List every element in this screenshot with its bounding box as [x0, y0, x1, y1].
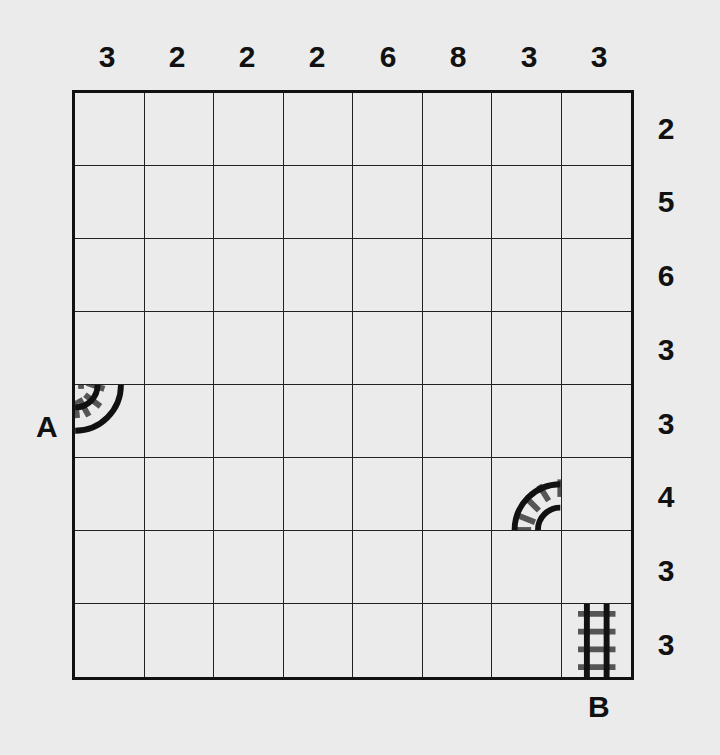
- grid-cell[interactable]: [145, 604, 215, 677]
- grid-cell[interactable]: [284, 166, 354, 239]
- grid-cell[interactable]: [145, 312, 215, 385]
- grid-cell[interactable]: [492, 385, 562, 458]
- grid-cell[interactable]: [214, 385, 284, 458]
- column-clue-7: 3: [494, 40, 564, 74]
- grid-cell[interactable]: [75, 239, 145, 312]
- grid-cell[interactable]: [75, 604, 145, 677]
- grid-cell[interactable]: [214, 458, 284, 531]
- grid-cell[interactable]: [562, 239, 632, 312]
- grid-cell[interactable]: [353, 93, 423, 166]
- curved-track-icon: [492, 458, 561, 530]
- grid-cell[interactable]: [284, 385, 354, 458]
- row-clue-2: 5: [646, 185, 686, 219]
- grid-cell[interactable]: [214, 604, 284, 677]
- grid-cell[interactable]: [562, 93, 632, 166]
- grid-cell[interactable]: [145, 385, 215, 458]
- grid-cell[interactable]: [562, 166, 632, 239]
- row-clue-6: 4: [646, 480, 686, 514]
- row-clue-7: 3: [646, 554, 686, 588]
- grid-cell[interactable]: [353, 312, 423, 385]
- grid-cell[interactable]: [214, 166, 284, 239]
- row-clue-5: 3: [646, 407, 686, 441]
- grid-cell[interactable]: [423, 458, 493, 531]
- grid-cell-given-track: [492, 458, 562, 531]
- grid-cell[interactable]: [492, 531, 562, 604]
- grid-cell[interactable]: [214, 93, 284, 166]
- endpoint-label-a: A: [36, 410, 58, 444]
- grid-cell[interactable]: [423, 166, 493, 239]
- grid-cell[interactable]: [562, 312, 632, 385]
- grid-cell[interactable]: [353, 239, 423, 312]
- grid-cell[interactable]: [423, 604, 493, 677]
- grid-cell[interactable]: [75, 458, 145, 531]
- track-grid: [72, 90, 634, 680]
- grid-cell[interactable]: [492, 604, 562, 677]
- grid-cell[interactable]: [75, 531, 145, 604]
- grid-cell[interactable]: [145, 458, 215, 531]
- grid-cell[interactable]: [75, 312, 145, 385]
- grid-cell[interactable]: [353, 604, 423, 677]
- grid-cell[interactable]: [492, 166, 562, 239]
- column-clue-5: 6: [353, 40, 423, 74]
- grid-cell[interactable]: [492, 239, 562, 312]
- grid-cell[interactable]: [353, 166, 423, 239]
- grid-cell[interactable]: [75, 93, 145, 166]
- column-clue-1: 3: [72, 40, 142, 74]
- grid-cell[interactable]: [423, 239, 493, 312]
- grid-cell[interactable]: [145, 239, 215, 312]
- grid-cell[interactable]: [145, 166, 215, 239]
- row-clue-8: 3: [646, 628, 686, 662]
- grid-cell[interactable]: [214, 312, 284, 385]
- endpoint-label-b: B: [588, 690, 610, 724]
- grid-cell[interactable]: [353, 458, 423, 531]
- grid-cell[interactable]: [562, 385, 632, 458]
- column-clue-4: 2: [282, 40, 352, 74]
- column-clue-6: 8: [423, 40, 493, 74]
- grid-cell[interactable]: [353, 531, 423, 604]
- grid-cell[interactable]: [145, 531, 215, 604]
- row-clue-3: 6: [646, 259, 686, 293]
- grid-cell[interactable]: [284, 239, 354, 312]
- grid-cell[interactable]: [284, 312, 354, 385]
- grid-cell[interactable]: [423, 312, 493, 385]
- row-clue-1: 2: [646, 112, 686, 146]
- curved-track-icon: [75, 385, 144, 457]
- grid-cell[interactable]: [75, 166, 145, 239]
- grid-cell[interactable]: [562, 458, 632, 531]
- column-clue-8: 3: [564, 40, 634, 74]
- grid-cell[interactable]: [562, 531, 632, 604]
- grid-cell-given-track: [562, 604, 632, 677]
- grid-cell[interactable]: [353, 385, 423, 458]
- grid-cell[interactable]: [423, 93, 493, 166]
- grid-cell-given-track: [75, 385, 145, 458]
- grid-cell[interactable]: [492, 312, 562, 385]
- grid-cell[interactable]: [145, 93, 215, 166]
- grid-cell[interactable]: [423, 531, 493, 604]
- grid-cell[interactable]: [214, 239, 284, 312]
- column-clue-2: 2: [142, 40, 212, 74]
- grid-cell[interactable]: [284, 93, 354, 166]
- grid-cell[interactable]: [492, 93, 562, 166]
- row-clue-4: 3: [646, 333, 686, 367]
- grid-cell[interactable]: [423, 385, 493, 458]
- grid-cell[interactable]: [284, 531, 354, 604]
- grid-cell[interactable]: [214, 531, 284, 604]
- column-clue-3: 2: [212, 40, 282, 74]
- grid-cell[interactable]: [284, 458, 354, 531]
- grid-cell[interactable]: [284, 604, 354, 677]
- straight-track-icon: [562, 604, 632, 677]
